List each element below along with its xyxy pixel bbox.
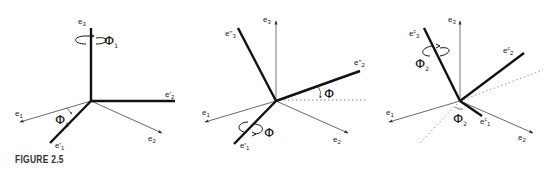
axis-e2 (91, 101, 162, 133)
dotted-line-upper (460, 70, 543, 101)
label-e-double-prime-3: e''3 (225, 29, 237, 39)
figure-canvas: e3 Φ1 e'2 e1 Φ1 e2 e'1 e3 e''3 e''2 Φ e1… (0, 0, 554, 173)
axis-e1 (389, 101, 460, 122)
axis-e-double-prime-3 (238, 28, 276, 101)
angle-arc (67, 108, 72, 114)
angle-label-phi2: Φ2 (415, 56, 429, 72)
axis-e2 (276, 101, 348, 133)
label-ec3: ec3 (409, 28, 420, 39)
angle-label-phi2-b: Φ2 (453, 111, 467, 127)
label-e1: e1 (15, 109, 23, 119)
axis-e2 (460, 101, 533, 133)
label-e-prime-2: e'2 (165, 90, 175, 100)
label-ec1: ec1 (480, 116, 491, 127)
label-e-prime-1: e'1 (240, 141, 250, 151)
label-e1: e1 (202, 108, 210, 118)
panel-rotation-3: e3 ec3 Φ2 ec2 e1 Φ2 ec1 e2 (386, 15, 543, 143)
angle-label-phi1: Φ1 (104, 33, 118, 49)
panel-rotation-2: e3 e''3 e''2 Φ e1 Φ e2 e'1 (202, 15, 368, 151)
axis-ec2 (460, 53, 524, 101)
axis-ec3 (424, 28, 460, 101)
angle-label-phi1-b: Φ1 (55, 112, 69, 128)
label-e1: e1 (386, 108, 394, 118)
angle-arc (318, 86, 321, 98)
label-e2: e2 (333, 135, 341, 145)
panel-rotation-1: e3 Φ1 e'2 e1 Φ1 e2 e'1 (15, 17, 175, 151)
angle-label-phi-rot: Φ (264, 125, 274, 140)
axis-ec1 (460, 101, 482, 116)
figure-caption: FIGURE 2.5 (15, 154, 64, 165)
label-e-double-prime-2: e''2 (354, 58, 366, 68)
label-e3: e3 (448, 15, 456, 25)
label-e3: e3 (263, 15, 271, 25)
label-e-prime-1: e'1 (55, 141, 65, 151)
label-e2: e2 (518, 133, 526, 143)
angle-arc (455, 107, 463, 109)
angle-label-phi: Φ (324, 86, 334, 101)
label-ec2: ec2 (503, 45, 514, 56)
label-e3: e3 (78, 17, 86, 27)
label-e2: e2 (148, 134, 156, 144)
